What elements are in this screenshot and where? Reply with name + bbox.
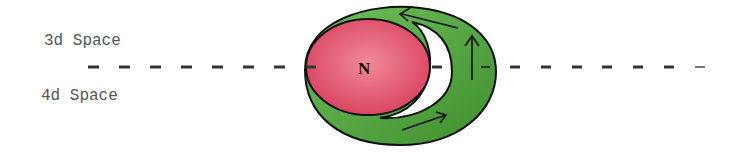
- north-label: N: [358, 59, 371, 78]
- diagram-graphic: N: [0, 0, 738, 154]
- diagram-3d-4d-space: 3d Space 4d Space: [0, 0, 738, 154]
